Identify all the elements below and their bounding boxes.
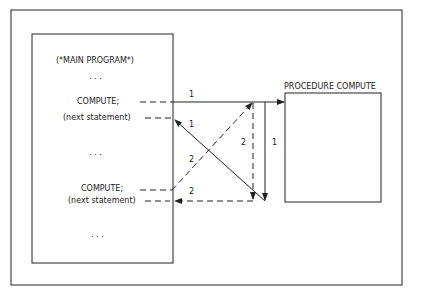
next-statement-1: (next statement) xyxy=(63,113,131,123)
diagram-canvas xyxy=(0,0,426,296)
label-call-2: 2 xyxy=(189,155,194,165)
compute-call-2: COMPUTE; xyxy=(81,184,123,194)
dots-bottom: . . . xyxy=(91,230,104,240)
procedure-title: PROCEDURE COMPUTE xyxy=(284,82,376,92)
dots-top: . . . xyxy=(89,72,102,82)
label-call-1: 1 xyxy=(189,90,194,100)
main-program-title: (*MAIN PROGRAM*) xyxy=(56,56,134,66)
call-2-dashed-diag xyxy=(172,103,252,190)
label-vertical-1: 1 xyxy=(272,138,277,148)
dots-mid: . . . xyxy=(89,148,102,158)
compute-call-1: COMPUTE; xyxy=(77,97,119,107)
main-program-box xyxy=(32,34,173,263)
label-return-1: 1 xyxy=(189,120,194,130)
label-return-2: 2 xyxy=(189,187,194,197)
next-statement-2: (next statement) xyxy=(68,196,136,206)
outer-frame xyxy=(11,10,402,285)
label-vertical-2: 2 xyxy=(241,138,246,148)
procedure-compute-box xyxy=(285,93,381,202)
